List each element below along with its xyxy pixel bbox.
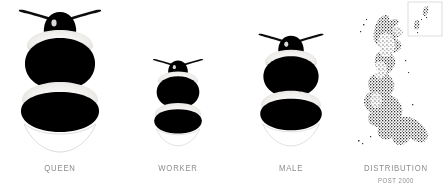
- map-inset-box: [408, 2, 442, 36]
- male-abdomen-band: [260, 99, 322, 131]
- bumblebee-plate: QUEEN: [0, 0, 446, 195]
- distribution-map: [346, 0, 446, 160]
- worker-bee-illustration: [120, 0, 236, 160]
- panel-worker: WORKER: [120, 0, 236, 195]
- male-head-highlight: [284, 42, 288, 47]
- queen-bee-illustration: [0, 0, 120, 160]
- worker-head-highlight: [173, 65, 176, 69]
- male-bee-illustration: [236, 0, 346, 160]
- worker-figure: [120, 0, 236, 160]
- panel-male: MALE: [236, 0, 346, 195]
- uk-distribution-map: [346, 0, 446, 160]
- queen-head-highlight: [51, 20, 56, 27]
- panel-distribution: DISTRIBUTION POST 2000: [346, 0, 446, 195]
- caption-distribution: DISTRIBUTION: [353, 163, 439, 174]
- worker-abdomen-band: [154, 109, 202, 133]
- caption-queen: QUEEN: [8, 163, 111, 174]
- queen-figure: [0, 0, 120, 160]
- male-figure: [236, 0, 346, 160]
- caption-distribution-sub: POST 2000: [353, 175, 439, 186]
- queen-abdomen-band: [21, 92, 99, 132]
- caption-worker: WORKER: [128, 163, 228, 174]
- caption-male: MALE: [244, 163, 339, 174]
- panel-queen: QUEEN: [0, 0, 120, 195]
